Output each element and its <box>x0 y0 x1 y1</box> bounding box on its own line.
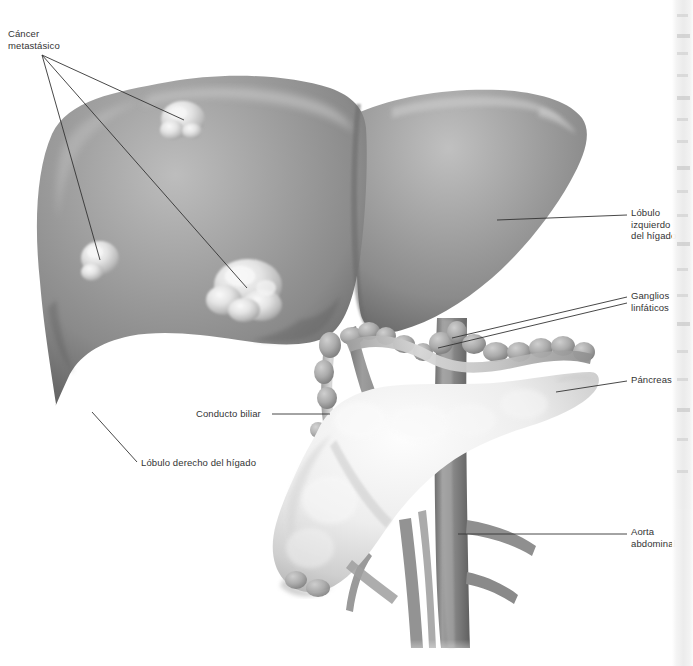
label-lobulo-izquierdo: Lóbulo izquierdo del hígado <box>631 207 676 242</box>
label-conducto-biliar: Conducto biliar <box>196 408 261 420</box>
lymph-nodes <box>340 321 595 373</box>
liver-left-lobe <box>357 90 587 333</box>
liver-anatomy-illustration <box>0 0 693 666</box>
vessel-fade <box>330 596 510 666</box>
label-aorta-abdominal: Aorta abdominal <box>631 526 676 549</box>
label-cancer-metastasico: Cáncer metastásico <box>8 28 60 51</box>
leader-lobulo-derecho <box>92 412 137 462</box>
page-edge-strip <box>672 0 693 666</box>
anatomical-figure: Cáncer metastásico Lóbulo izquierdo del … <box>0 0 693 666</box>
label-ganglios-linfaticos: Ganglios linfáticos <box>631 290 669 313</box>
leader-ganglios-1 <box>452 297 627 338</box>
label-lobulo-derecho: Lóbulo derecho del hígado <box>141 457 256 469</box>
label-pancreas: Páncreas <box>631 374 672 386</box>
